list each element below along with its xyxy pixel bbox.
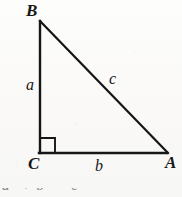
- caption-strip: a² + b² = c²: [0, 188, 182, 197]
- vertex-label-c: C: [28, 155, 39, 172]
- side-label-b: b: [95, 158, 103, 174]
- right-angle-marker: [40, 138, 55, 153]
- pythagorean-formula: a² + b² = c²: [2, 188, 84, 194]
- right-triangle-figure: B C A a b c a² + b² = c²: [0, 0, 182, 197]
- side-label-c: c: [109, 71, 116, 87]
- side-label-a: a: [26, 77, 34, 93]
- side-c-line: [40, 21, 168, 153]
- vertex-label-b: B: [26, 2, 37, 19]
- vertex-label-a: A: [165, 154, 176, 171]
